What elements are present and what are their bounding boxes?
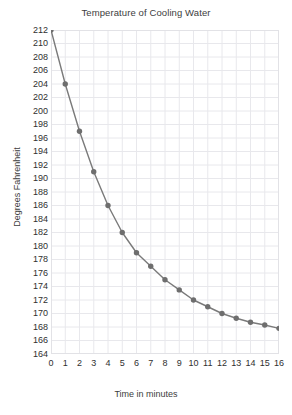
x-axis-tick-label: 16 [269,358,289,368]
x-axis-ticks: 012345678910111213141516 [0,0,292,415]
chart-container: Temperature of Cooling Water Degrees Fah… [0,0,292,415]
